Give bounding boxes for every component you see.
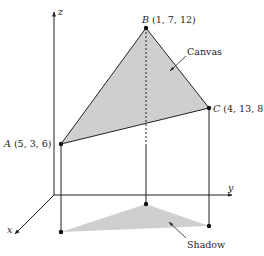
point-a-label: A (5, 3, 6) [3, 138, 52, 149]
shadow-triangle [61, 204, 209, 232]
diagram-canvas: z y x B (1, 7, 12) A (5, 3, 6) C (4, 13,… [0, 0, 264, 256]
point-b [144, 26, 148, 30]
point-a-coords: (5, 3, 6) [14, 138, 52, 149]
point-b-label: B (1, 7, 12) [141, 14, 196, 25]
shadow-label: Shadow [187, 239, 225, 250]
point-c-coords: (4, 13, 8) [223, 103, 264, 114]
point-c-label: C (4, 13, 8) [213, 103, 264, 114]
point-b-name: B [141, 14, 149, 25]
shadow-point-c [207, 224, 211, 228]
z-axis-label: z [57, 6, 64, 17]
y-axis-label: y [227, 182, 234, 193]
shadow-point-b [144, 202, 148, 206]
canvas-label: Canvas [187, 46, 222, 57]
point-c [207, 106, 211, 110]
point-c-name: C [213, 103, 221, 114]
point-a [59, 142, 63, 146]
point-b-coords: (1, 7, 12) [152, 14, 196, 25]
point-a-name: A [3, 138, 11, 149]
x-axis-label: x [7, 224, 13, 235]
shadow-point-a [59, 230, 63, 234]
x-axis [15, 195, 54, 234]
